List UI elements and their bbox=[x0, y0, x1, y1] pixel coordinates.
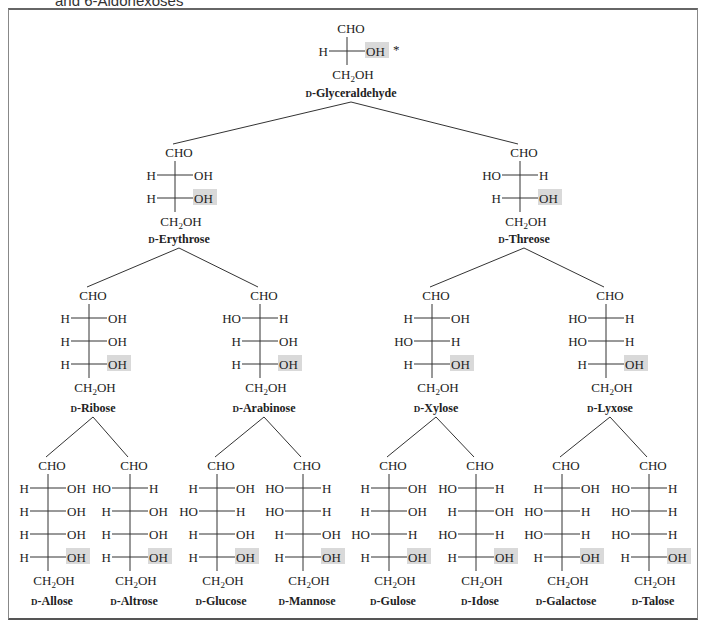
glyceraldehyde-cho-group: CHO bbox=[337, 21, 364, 36]
gulose-cho-group: CHO bbox=[379, 458, 406, 473]
arabinose-left-group-3: H bbox=[232, 357, 241, 372]
gulose-right-group-4: OH bbox=[408, 550, 427, 565]
allose-tree-connector bbox=[46, 417, 93, 457]
xylose-right-group-2: H bbox=[451, 334, 460, 349]
altrose-name-label: D-Altrose bbox=[110, 594, 158, 608]
xylose-right-group-1: OH bbox=[451, 311, 470, 326]
idose-right-group-1: H bbox=[495, 481, 504, 496]
threose-right-group-2: OH bbox=[539, 191, 558, 206]
xylose-left-group-1: H bbox=[404, 311, 413, 326]
xylose-left-group-2: HO bbox=[394, 334, 413, 349]
galactose-right-group-3: H bbox=[581, 527, 590, 542]
glucose-left-group-4: H bbox=[189, 550, 198, 565]
allose-name-label: D-Allose bbox=[31, 594, 74, 608]
lyxose-cho-group: CHO bbox=[596, 288, 623, 303]
gulose-ch2oh-group: CH2OH bbox=[374, 573, 415, 590]
glucose-right-group-2: H bbox=[236, 504, 245, 519]
allose-left-group-3: H bbox=[20, 527, 29, 542]
mannose-right-group-1: H bbox=[322, 481, 331, 496]
arabinose-right-group-1: H bbox=[279, 311, 288, 326]
gulose-right-group-1: OH bbox=[408, 481, 427, 496]
lyxose-name-label: D-Lyxose bbox=[587, 401, 634, 415]
galactose-left-group-1: H bbox=[534, 481, 543, 496]
gulose-tree-connector bbox=[387, 417, 436, 457]
aldose-family-tree-diagram: CHOHOH*CH2OHD-GlyceraldehydeCHOHOHHOHCH2… bbox=[0, 0, 703, 630]
glucose-cho-group: CHO bbox=[207, 458, 234, 473]
erythrose-left-group-1: H bbox=[147, 168, 156, 183]
arabinose-ch2oh-group: CH2OH bbox=[245, 380, 286, 397]
xylose-left-group-3: H bbox=[404, 357, 413, 372]
idose-left-group-3: HO bbox=[438, 527, 457, 542]
allose-right-group-1: OH bbox=[67, 481, 86, 496]
idose-right-group-3: H bbox=[495, 527, 504, 542]
mannose-left-group-2: HO bbox=[265, 504, 284, 519]
arabinose-cho-group: CHO bbox=[250, 288, 277, 303]
galactose-left-group-3: HO bbox=[524, 527, 543, 542]
ribose-ch2oh-group: CH2OH bbox=[74, 380, 115, 397]
erythrose-right-group-1: OH bbox=[194, 168, 213, 183]
mannose-cho-group: CHO bbox=[293, 458, 320, 473]
mannose-tree-connector bbox=[264, 417, 301, 457]
galactose-tree-connector bbox=[560, 417, 610, 457]
glucose-left-group-1: H bbox=[189, 481, 198, 496]
talose-name-label: D-Talose bbox=[632, 594, 675, 608]
ribose-left-group-2: H bbox=[61, 334, 70, 349]
ribose-tree-connector bbox=[87, 248, 179, 287]
xylose-ch2oh-group: CH2OH bbox=[417, 380, 458, 397]
galactose-cho-group: CHO bbox=[552, 458, 579, 473]
altrose-right-group-2: OH bbox=[149, 504, 168, 519]
erythrose-right-group-2: OH bbox=[194, 191, 213, 206]
talose-right-group-1: H bbox=[668, 481, 677, 496]
idose-left-group-2: H bbox=[448, 504, 457, 519]
glucose-left-group-3: H bbox=[189, 527, 198, 542]
allose-left-group-2: H bbox=[20, 504, 29, 519]
erythrose-ch2oh-group: CH2OH bbox=[160, 214, 201, 231]
altrose-cho-group: CHO bbox=[120, 458, 147, 473]
xylose-tree-connector bbox=[430, 248, 524, 287]
gulose-left-group-3: HO bbox=[351, 527, 370, 542]
mannose-left-group-3: H bbox=[275, 527, 284, 542]
gulose-left-group-4: H bbox=[361, 550, 370, 565]
talose-ch2oh-group: CH2OH bbox=[634, 573, 675, 590]
glucose-tree-connector bbox=[215, 417, 264, 457]
xylose-right-group-3: OH bbox=[451, 357, 470, 372]
ribose-left-group-1: H bbox=[61, 311, 70, 326]
talose-left-group-3: HO bbox=[611, 527, 630, 542]
lyxose-right-group-3: OH bbox=[625, 357, 644, 372]
arabinose-right-group-2: OH bbox=[279, 334, 298, 349]
threose-left-group-2: H bbox=[492, 191, 501, 206]
glyceraldehyde-name-label: D-Glyceraldehyde bbox=[305, 86, 397, 100]
galactose-left-group-4: H bbox=[534, 550, 543, 565]
glucose-right-group-4: OH bbox=[236, 550, 255, 565]
mannose-name-label: D-Mannose bbox=[278, 594, 336, 608]
threose-left-group-1: HO bbox=[482, 168, 501, 183]
idose-tree-connector bbox=[436, 417, 474, 457]
arabinose-tree-connector bbox=[179, 248, 258, 287]
altrose-left-group-2: H bbox=[102, 504, 111, 519]
allose-right-group-3: OH bbox=[67, 527, 86, 542]
idose-left-group-4: H bbox=[448, 550, 457, 565]
galactose-right-group-1: OH bbox=[581, 481, 600, 496]
arabinose-name-label: D-Arabinose bbox=[232, 401, 296, 415]
idose-right-group-2: OH bbox=[495, 504, 514, 519]
glyceraldehyde-ch2oh-group: CH2OH bbox=[332, 67, 373, 84]
idose-cho-group: CHO bbox=[466, 458, 493, 473]
idose-left-group-1: HO bbox=[438, 481, 457, 496]
glucose-right-group-3: OH bbox=[236, 527, 255, 542]
talose-left-group-2: HO bbox=[611, 504, 630, 519]
gulose-right-group-3: H bbox=[408, 527, 417, 542]
chiral-center-marker: * bbox=[393, 42, 400, 57]
threose-cho-group: CHO bbox=[510, 145, 537, 160]
threose-tree-connector bbox=[351, 102, 518, 144]
talose-right-group-3: H bbox=[668, 527, 677, 542]
galactose-left-group-2: HO bbox=[524, 504, 543, 519]
gulose-name-label: D-Gulose bbox=[370, 594, 417, 608]
allose-right-group-4: OH bbox=[67, 550, 86, 565]
mannose-right-group-4: OH bbox=[322, 550, 341, 565]
altrose-right-group-4: OH bbox=[149, 550, 168, 565]
allose-right-group-2: OH bbox=[67, 504, 86, 519]
lyxose-tree-connector bbox=[524, 248, 604, 287]
erythrose-name-label: D-Erythrose bbox=[148, 232, 210, 246]
idose-right-group-4: OH bbox=[495, 550, 514, 565]
lyxose-left-group-2: HO bbox=[568, 334, 587, 349]
